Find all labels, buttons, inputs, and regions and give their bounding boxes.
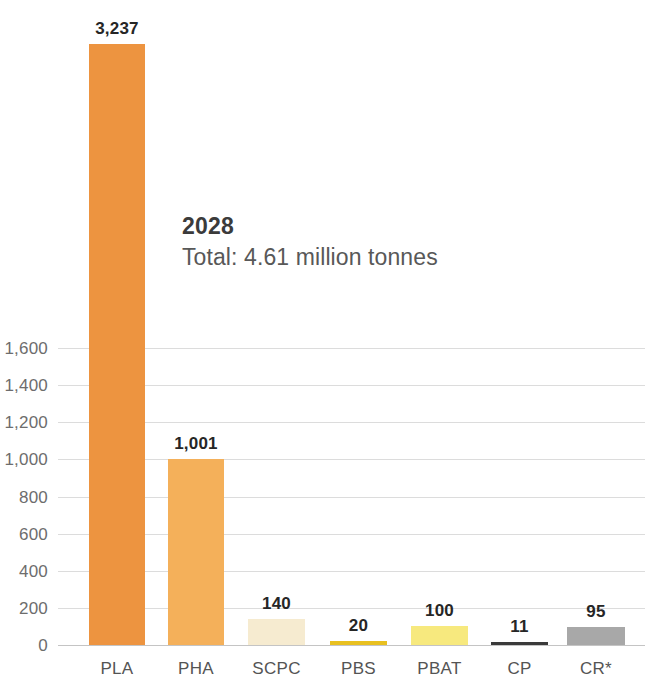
gridline: [58, 459, 645, 460]
bar-value-label: 1,001: [156, 435, 236, 452]
x-axis-label-cp: CP: [477, 660, 562, 677]
bar-chart: 02004006008001,0001,2001,4001,600 3,2371…: [0, 0, 647, 689]
x-axis-label-scpc: SCPC: [234, 660, 319, 677]
y-axis-tick-label: 600: [0, 526, 48, 543]
y-axis-tick-label: 1,200: [0, 414, 48, 431]
x-axis-label-cr: CR*: [553, 660, 639, 677]
bar-value-label: 3,237: [77, 20, 157, 37]
bar-cp: [491, 642, 548, 645]
y-axis-tick-label: 1,600: [0, 340, 48, 357]
bar-pbs: [330, 641, 387, 645]
bar-pha: [168, 459, 224, 645]
y-axis-tick-label: 1,400: [0, 377, 48, 394]
bar-pla: [89, 44, 145, 645]
chart-annotation: 2028 Total: 4.61 million tonnes: [182, 213, 438, 271]
bar-value-label: 100: [399, 602, 480, 619]
bar-scpc: [248, 619, 305, 645]
y-axis-tick-label: 1,000: [0, 451, 48, 468]
x-axis-label-pha: PHA: [154, 660, 238, 677]
axis-baseline: [58, 645, 645, 646]
gridline: [58, 497, 645, 498]
y-axis-tick-label: 800: [0, 489, 48, 506]
gridline: [58, 571, 645, 572]
gridline: [58, 422, 645, 423]
bar-value-label: 11: [479, 618, 560, 635]
x-axis-label-pla: PLA: [75, 660, 159, 677]
y-axis-tick-label: 400: [0, 563, 48, 580]
x-axis-label-pbat: PBAT: [397, 660, 482, 677]
bar-value-label: 140: [236, 595, 317, 612]
gridline: [58, 534, 645, 535]
y-axis-tick-label: 0: [0, 637, 48, 654]
y-axis-tick-label: 200: [0, 600, 48, 617]
gridline: [58, 385, 645, 386]
bar-value-label: 95: [555, 603, 637, 620]
gridline: [58, 348, 645, 349]
x-axis-label-pbs: PBS: [316, 660, 401, 677]
bar-cr: [567, 627, 625, 645]
bar-pbat: [411, 626, 468, 645]
annotation-total: Total: 4.61 million tonnes: [182, 243, 438, 271]
annotation-year: 2028: [182, 213, 438, 240]
bar-value-label: 20: [318, 617, 399, 634]
